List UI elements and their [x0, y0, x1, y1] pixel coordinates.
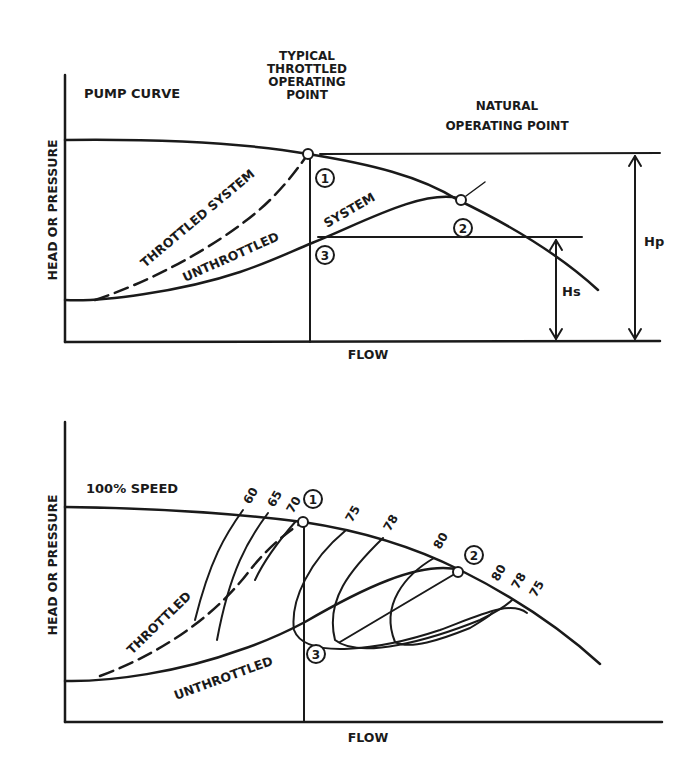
eff-label-78-upper: 78: [380, 512, 400, 533]
top-chart: 1 2 3 PUMP CURVE TYPICAL THROTTLED OPERA…: [45, 49, 664, 362]
system-label: SYSTEM: [321, 189, 377, 230]
pump-curve-label: PUMP CURVE: [84, 86, 180, 101]
bottom-x-axis-label: FLOW: [348, 730, 389, 745]
typical-label-line4: POINT: [286, 88, 329, 102]
typical-label-line2: THROTTLED: [267, 62, 347, 76]
hs-label: Hs: [562, 284, 581, 299]
throttled-operating-point-marker: [303, 149, 313, 159]
typical-label-line3: OPERATING: [268, 75, 345, 89]
bottom-throttled-label: THROTTLED: [124, 588, 194, 657]
speed-100-label: 100% SPEED: [86, 481, 178, 496]
throttled-point-marker: [298, 517, 308, 527]
hp-reference-line: [320, 153, 660, 154]
eff-label-80-lower: 80: [488, 562, 508, 583]
eff-label-75-lower: 75: [526, 578, 546, 599]
efficiency-contour-65: [217, 513, 268, 640]
point-3-label: 3: [321, 249, 329, 263]
eff-label-65: 65: [264, 488, 284, 509]
eff-label-75-upper: 75: [342, 503, 362, 524]
natural-point-marker: [453, 567, 463, 577]
top-y-axis-label: HEAD OR PRESSURE: [45, 139, 60, 280]
unthrottled-label: UNTHROTTLED: [180, 229, 281, 285]
eff-label-70: 70: [283, 494, 303, 515]
diagram-canvas: 1 2 3 PUMP CURVE TYPICAL THROTTLED OPERA…: [0, 0, 690, 770]
hp-label: Hp: [644, 234, 664, 249]
point-2-label: 2: [459, 222, 467, 236]
bottom-chart: 1 2 3 60 65 70 75 78 80 80 78 75 100% SP…: [45, 422, 662, 745]
top-x-axis: [65, 341, 660, 342]
bottom-point-1-label: 1: [309, 493, 317, 507]
bottom-unthrottled-label: UNTHROTTLED: [172, 653, 275, 703]
natural-operating-point-marker: [456, 195, 466, 205]
eff-label-78-lower: 78: [508, 570, 528, 591]
bottom-y-axis-label: HEAD OR PRESSURE: [45, 494, 60, 635]
eff-label-60: 60: [240, 485, 260, 506]
natural-label-line1: NATURAL: [476, 99, 539, 113]
throttled-system-curve: [95, 154, 308, 300]
point-1-label: 1: [321, 172, 329, 186]
bottom-point-2-label: 2: [470, 549, 478, 563]
efficiency-contour-80: [391, 558, 492, 645]
top-x-axis-label: FLOW: [348, 347, 389, 362]
natural-label-line2: OPERATING POINT: [445, 119, 569, 133]
typical-label-line1: TYPICAL: [279, 49, 335, 63]
eff-label-80-upper: 80: [430, 530, 450, 551]
bottom-point-3-label: 3: [312, 648, 320, 662]
natural-point-leader: [466, 182, 485, 196]
